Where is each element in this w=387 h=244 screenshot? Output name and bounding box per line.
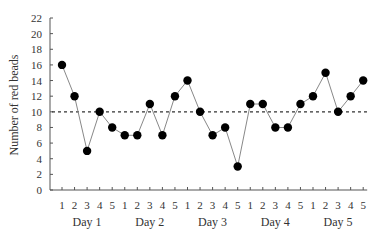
data-point: [83, 147, 91, 155]
data-point: [221, 123, 229, 131]
x-tick-label: 1: [248, 199, 254, 211]
x-tick-label: 1: [310, 199, 316, 211]
data-point: [183, 76, 191, 84]
x-tick-label: 2: [197, 199, 203, 211]
data-point: [196, 108, 204, 116]
x-tick-label: 4: [348, 199, 354, 211]
x-tick-label: 3: [84, 199, 90, 211]
data-point: [296, 100, 304, 108]
y-tick-label: 14: [31, 75, 43, 87]
y-tick-label: 12: [31, 90, 42, 102]
x-tick-label: 5: [172, 199, 178, 211]
x-group-label: Day 1: [73, 215, 102, 229]
x-tick-label: 3: [335, 199, 341, 211]
y-tick-label: 20: [31, 28, 43, 40]
y-tick-label: 2: [37, 168, 43, 180]
data-point: [321, 69, 329, 77]
x-tick-label: 1: [122, 199, 128, 211]
x-tick-label: 2: [72, 199, 78, 211]
x-tick-label: 2: [135, 199, 141, 211]
y-tick-label: 4: [37, 153, 43, 165]
y-tick-label: 6: [37, 137, 43, 149]
x-tick-label: 2: [260, 199, 266, 211]
x-tick-label: 2: [323, 199, 329, 211]
data-point: [58, 61, 66, 69]
x-tick-label: 4: [160, 199, 166, 211]
x-tick-label: 1: [185, 199, 191, 211]
data-point: [271, 123, 279, 131]
data-point: [234, 162, 242, 170]
data-point: [171, 92, 179, 100]
data-point: [309, 92, 317, 100]
data-point: [246, 100, 254, 108]
x-axis: 1234512345123451234512345Day 1Day 2Day 3…: [50, 187, 367, 229]
data-point: [121, 131, 129, 139]
y-tick-label: 10: [31, 106, 43, 118]
data-point: [284, 123, 292, 131]
y-axis: 0246810121416182022: [31, 12, 53, 196]
x-tick-label: 3: [210, 199, 216, 211]
x-group-label: Day 3: [198, 215, 227, 229]
data-point: [108, 123, 116, 131]
y-tick-label: 22: [31, 12, 42, 24]
y-tick-label: 18: [31, 43, 43, 55]
data-point: [208, 131, 216, 139]
x-tick-label: 5: [298, 199, 304, 211]
x-tick-label: 5: [360, 199, 366, 211]
data-point: [259, 100, 267, 108]
data-point: [70, 92, 78, 100]
x-tick-label: 3: [147, 199, 153, 211]
data-point: [359, 76, 367, 84]
x-tick-label: 4: [97, 199, 103, 211]
red-beads-run-chart: 0246810121416182022 12345123451234512345…: [0, 0, 387, 244]
x-tick-label: 4: [222, 199, 228, 211]
x-tick-label: 5: [235, 199, 241, 211]
y-tick-label: 16: [31, 59, 43, 71]
data-point: [95, 108, 103, 116]
y-axis-title: Number of red beads: [7, 54, 21, 155]
y-tick-label: 8: [37, 121, 43, 133]
x-tick-label: 3: [273, 199, 279, 211]
data-point: [158, 131, 166, 139]
data-series: [58, 61, 368, 171]
y-tick-label: 0: [37, 184, 43, 196]
x-tick-label: 1: [59, 199, 65, 211]
data-point: [133, 131, 141, 139]
x-group-label: Day 4: [261, 215, 290, 229]
x-group-label: Day 2: [135, 215, 164, 229]
data-point: [146, 100, 154, 108]
data-point: [334, 108, 342, 116]
x-tick-label: 4: [285, 199, 291, 211]
x-group-label: Day 5: [324, 215, 353, 229]
x-tick-label: 5: [109, 199, 115, 211]
data-point: [346, 92, 354, 100]
